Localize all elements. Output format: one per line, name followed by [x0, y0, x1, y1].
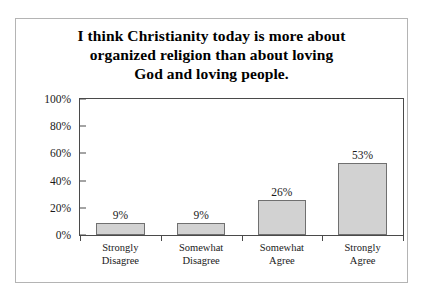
x-tick-mark-0	[80, 235, 81, 241]
bar-somewhat-agree[interactable]	[258, 200, 306, 235]
plot-area: 100% 80% 60% 40% 20% 0% 9% Strongly Disa…	[79, 98, 404, 236]
bar-slot-strongly-disagree: 9% Strongly Disagree	[80, 99, 161, 235]
chart-figure: I think Christianity today is more about…	[15, 18, 408, 283]
x-axis-label-line-2: Disagree	[80, 255, 161, 268]
y-tick-label-80: 80%	[50, 120, 80, 132]
y-tick-label-40: 40%	[50, 175, 80, 187]
x-tick-mark-4	[403, 235, 404, 241]
x-axis-label-line-2: Agree	[322, 255, 403, 268]
chart-title-line-1: I think Christianity today is more about	[16, 26, 407, 45]
bar-value-label-somewhat-agree: 26%	[242, 186, 323, 198]
bar-somewhat-disagree[interactable]	[177, 223, 225, 235]
x-tick-mark-2	[242, 235, 243, 241]
bar-value-label-somewhat-disagree: 9%	[161, 209, 242, 221]
x-axis-label-line-1: Somewhat	[242, 242, 323, 255]
x-axis-label-line-2: Agree	[242, 255, 323, 268]
bar-slot-strongly-agree: 53% Strongly Agree	[322, 99, 403, 235]
bar-strongly-disagree[interactable]	[96, 223, 144, 235]
chart-title: I think Christianity today is more about…	[16, 26, 407, 83]
x-axis-label-somewhat-agree: Somewhat Agree	[242, 242, 323, 267]
bar-strongly-agree[interactable]	[338, 163, 386, 235]
x-tick-mark-1	[161, 235, 162, 241]
y-tick-label-60: 60%	[50, 147, 80, 159]
chart-title-line-3: God and loving people.	[16, 64, 407, 83]
x-axis-label-strongly-agree: Strongly Agree	[322, 242, 403, 267]
x-axis-label-line-1: Strongly	[80, 242, 161, 255]
x-axis-label-line-2: Disagree	[161, 255, 242, 268]
x-tick-mark-3	[322, 235, 323, 241]
y-tick-label-0: 0%	[56, 229, 80, 241]
x-axis-label-line-1: Somewhat	[161, 242, 242, 255]
x-axis-label-somewhat-disagree: Somewhat Disagree	[161, 242, 242, 267]
y-tick-label-20: 20%	[50, 202, 80, 214]
chart-title-line-2: organized religion than about loving	[16, 45, 407, 64]
y-tick-label-100: 100%	[44, 93, 80, 105]
bar-slot-somewhat-disagree: 9% Somewhat Disagree	[161, 99, 242, 235]
x-axis-label-line-1: Strongly	[322, 242, 403, 255]
bar-slot-somewhat-agree: 26% Somewhat Agree	[242, 99, 323, 235]
bar-value-label-strongly-disagree: 9%	[80, 209, 161, 221]
x-axis-label-strongly-disagree: Strongly Disagree	[80, 242, 161, 267]
bar-value-label-strongly-agree: 53%	[322, 149, 403, 161]
